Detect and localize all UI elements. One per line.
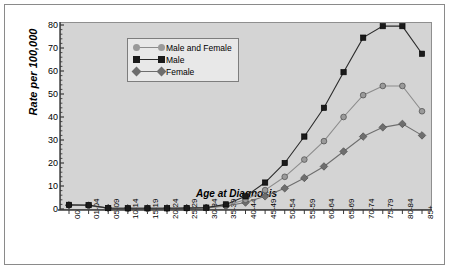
legend-label: Male and Female [166,42,232,54]
data-point-square [360,35,365,40]
legend-item: Male [132,54,232,66]
legend-marker-diamond-icon [157,67,167,77]
legend-marker-square-icon [133,56,140,63]
data-point-square [419,51,424,56]
legend-label: Male [166,54,184,66]
data-point-circle [419,108,425,114]
legend-marker-diamond-icon [132,67,142,77]
data-point-circle [282,174,288,180]
data-point-diamond [399,120,407,128]
data-point-square [204,205,209,210]
legend-symbol-square-icon [132,54,166,66]
data-point-square [145,206,150,211]
legend-marker-circle-icon [158,44,165,51]
data-point-square [380,23,385,28]
data-point-circle [360,92,366,98]
data-point-square [400,23,405,28]
data-point-diamond [281,185,289,193]
legend-item: Male and Female [132,42,232,54]
data-point-circle [400,83,406,89]
series-line [69,26,422,208]
legend-marker-square-icon [158,56,165,63]
series-line [69,86,422,208]
data-point-diamond [261,193,269,201]
data-point-square [282,160,287,165]
data-point-circle [301,157,307,163]
data-point-square [66,202,71,207]
legend-label: Female [166,66,194,78]
data-point-square [223,202,228,207]
data-point-square [302,134,307,139]
chart-figure: Rate per 100,000 01020304050607080 0001-… [0,0,452,272]
data-point-square [262,180,267,185]
data-point-circle [262,187,268,193]
data-point-diamond [379,124,387,132]
data-point-circle [380,83,386,89]
data-point-square [86,202,91,207]
data-point-square [164,206,169,211]
data-point-square [184,205,189,210]
data-point-square [321,105,326,110]
data-point-square [341,69,346,74]
data-point-circle [341,114,347,120]
data-point-circle [321,138,327,144]
data-point-square [106,205,111,210]
series-male [66,23,424,210]
data-point-square [125,206,130,211]
chart-legend: Male and FemaleMaleFemale [127,38,239,82]
legend-item: Female [132,66,232,78]
data-point-diamond [301,174,309,182]
data-point-square [243,194,248,199]
legend-symbol-diamond-icon [132,66,166,78]
data-point-diamond [418,132,426,140]
legend-marker-circle-icon [133,44,140,51]
series-male-and-female [66,83,425,211]
legend-symbol-circle-icon [132,42,166,54]
